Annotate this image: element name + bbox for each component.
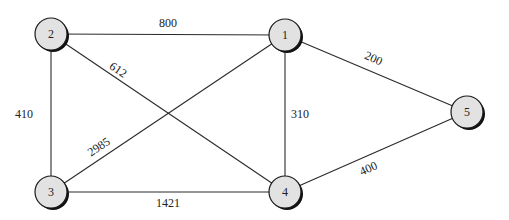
edge-weight-label: 800	[159, 16, 177, 30]
node-label: 5	[464, 105, 470, 119]
edge-weight-label: 2985	[85, 134, 113, 159]
edge-labels-layer: 80061241029853102004001421	[15, 16, 385, 210]
graph-diagram: 80061241029853102004001421 12345	[0, 0, 509, 220]
node-label: 3	[48, 185, 54, 199]
node-label: 4	[282, 185, 288, 199]
edge-4-5	[285, 112, 467, 192]
nodes-layer: 12345	[35, 18, 485, 210]
node-1: 1	[269, 19, 303, 53]
edge-weight-label: 410	[15, 107, 33, 121]
edges-layer	[51, 34, 467, 192]
node-4: 4	[269, 176, 303, 210]
node-5: 5	[451, 96, 485, 130]
edge-weight-label: 1421	[156, 196, 180, 210]
edge-2-1	[51, 34, 285, 35]
graph-svg: 80061241029853102004001421 12345	[0, 0, 509, 220]
edge-1-5	[285, 35, 467, 112]
node-3: 3	[35, 176, 69, 210]
edge-weight-label: 310	[291, 107, 309, 121]
node-label: 1	[282, 28, 288, 42]
node-2: 2	[35, 18, 69, 52]
edge-weight-label: 400	[357, 158, 379, 178]
node-label: 2	[48, 27, 54, 41]
edge-weight-label: 200	[363, 48, 385, 68]
edge-weight-label: 612	[107, 59, 130, 81]
